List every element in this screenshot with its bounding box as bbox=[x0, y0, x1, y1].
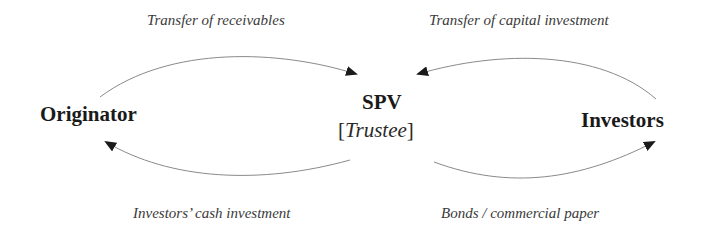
node-spv-role: [Trustee] bbox=[338, 118, 414, 143]
arrow-spv-to-originator bbox=[106, 142, 350, 175]
label-investors-cash-investment: Investors’ cash investment bbox=[133, 205, 290, 222]
node-spv: SPV bbox=[362, 90, 402, 115]
node-originator: Originator bbox=[40, 102, 137, 127]
arrow-investors-to-spv bbox=[418, 58, 656, 99]
node-investors: Investors bbox=[581, 108, 664, 133]
label-bonds-commercial-paper: Bonds / commercial paper bbox=[441, 205, 599, 222]
bracket-close: ] bbox=[407, 118, 414, 142]
bracket-open: [ bbox=[338, 118, 345, 142]
label-transfer-of-capital-investment: Transfer of capital investment bbox=[429, 12, 609, 29]
spv-role-trustee: Trustee bbox=[345, 118, 407, 142]
securitization-diagram: Transfer of receivables Transfer of capi… bbox=[0, 0, 724, 231]
label-transfer-of-receivables: Transfer of receivables bbox=[147, 12, 285, 29]
arrow-spv-to-investors bbox=[434, 142, 654, 178]
arrow-originator-to-spv bbox=[100, 57, 356, 97]
